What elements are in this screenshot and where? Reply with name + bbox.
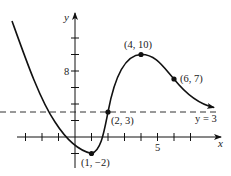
point-label-min: (1, −2)	[81, 157, 110, 169]
x-tick-label-5: 5	[155, 142, 160, 153]
point-label-6-7: (6, 7)	[180, 73, 203, 85]
y-tick-label-8: 8	[64, 66, 69, 77]
asymptote-label: y = 3	[195, 113, 217, 124]
y-axis-label: y	[63, 11, 69, 23]
function-graph: y x 8 5 y = 3 (1, −2) (2, 3) (4, 10) (6,…	[0, 0, 231, 176]
x-axis	[17, 133, 221, 141]
x-axis-label: x	[217, 137, 223, 149]
point-label-max: (4, 10)	[124, 39, 152, 51]
point-label-2-3: (2, 3)	[111, 115, 134, 127]
point-2-3	[105, 109, 110, 114]
point-6-7	[171, 76, 176, 81]
point-min	[89, 151, 94, 156]
point-max	[138, 52, 143, 57]
